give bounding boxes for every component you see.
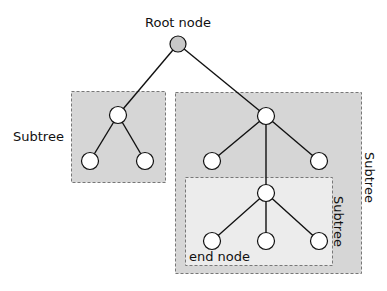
tree-node (110, 107, 127, 124)
tree-node (258, 108, 275, 125)
inner-subtree-label: Subtree (331, 196, 346, 247)
left-subtree-label: Subtree (13, 129, 64, 144)
tree-diagram: Root node Subtree Subtree Subtree end no… (0, 0, 387, 291)
right-subtree-label: Subtree (362, 152, 377, 203)
root-node-label: Root node (145, 15, 211, 30)
tree-node (204, 233, 221, 250)
end-node-label: end node (189, 249, 250, 264)
tree-node (204, 153, 221, 170)
tree-node (311, 233, 328, 250)
tree-node (82, 153, 99, 170)
tree-node (258, 233, 275, 250)
tree-node (311, 153, 328, 170)
tree-node (258, 185, 275, 202)
root-node (170, 36, 186, 52)
tree-node (137, 153, 154, 170)
